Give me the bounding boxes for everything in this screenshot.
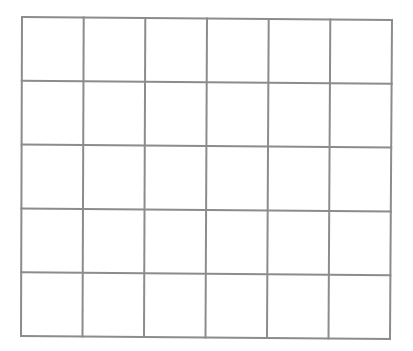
grid-lines xyxy=(21,17,392,339)
grid-column-line xyxy=(206,19,208,338)
grid-diagram xyxy=(0,0,413,351)
grid-column-line xyxy=(267,19,269,338)
grid-column-line xyxy=(144,18,145,337)
grid-column-line xyxy=(329,20,331,339)
grid-border-vertical xyxy=(21,17,22,336)
grid-border-vertical xyxy=(390,20,392,339)
grid-column-line xyxy=(83,18,84,337)
